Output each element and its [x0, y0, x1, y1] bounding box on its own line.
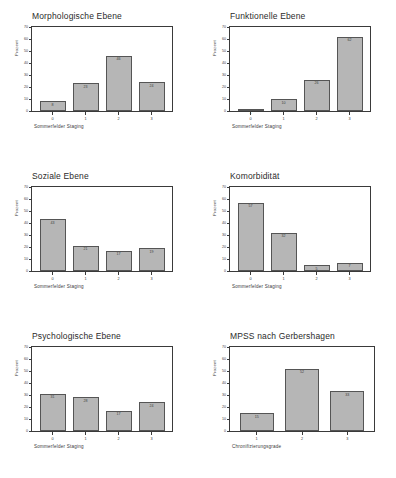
- bar: 28: [73, 397, 99, 431]
- x-tick-mark: [52, 271, 53, 275]
- x-axis-label: Sommerfelder Staging: [232, 124, 282, 129]
- y-tick-label: 0: [26, 429, 28, 433]
- bar-value-label: 26: [315, 82, 319, 86]
- y-tick-mark: [227, 271, 231, 272]
- bar-slot: 430: [36, 187, 69, 271]
- y-tick-label: 40: [222, 381, 226, 385]
- bar-value-label: 62: [348, 39, 352, 43]
- chart-panel-psychologische-ebene: Psychologische Ebene Prozent 01020304050…: [0, 320, 198, 478]
- chart-panel-funktionelle-ebene: Funktionelle Ebene Prozent 0102030405060…: [198, 0, 396, 160]
- plot-area: 010203040506070 5703215273: [229, 186, 371, 272]
- y-tick-label: 30: [222, 393, 226, 397]
- y-axis-label: Prozent: [212, 40, 217, 56]
- bar-slot: 172: [102, 347, 135, 431]
- y-axis-label: Prozent: [14, 200, 19, 216]
- x-tick-mark: [250, 271, 251, 275]
- y-tick-label: 50: [222, 369, 226, 373]
- x-tick-mark: [349, 111, 350, 115]
- y-tick-label: 0: [224, 429, 226, 433]
- bar-slot: 211: [69, 187, 102, 271]
- y-tick-label: 20: [24, 405, 28, 409]
- bar-slot: 462: [102, 27, 135, 111]
- bar-value-label: 28: [84, 400, 88, 404]
- y-tick-label: 60: [222, 37, 226, 41]
- chart-title: Komorbidität: [230, 171, 280, 181]
- x-tick-mark: [283, 111, 284, 115]
- bar-slot: 10: [234, 27, 267, 111]
- y-tick-label: 0: [224, 109, 226, 113]
- bar-slot: 151: [234, 347, 279, 431]
- y-tick-label: 20: [222, 245, 226, 249]
- bar-slot: 623: [333, 27, 366, 111]
- bar-value-label: 8: [52, 104, 54, 108]
- bar-slot: 281: [69, 347, 102, 431]
- x-tick-mark: [85, 271, 86, 275]
- plot-area: 010203040506070 80231462243: [31, 26, 173, 112]
- x-tick-label: 1: [256, 437, 258, 441]
- y-tick-label: 30: [24, 73, 28, 77]
- plot-area: 010203040506070 10101262623: [229, 26, 371, 112]
- x-tick-mark: [118, 111, 119, 115]
- bar-series: 430211172193: [32, 187, 172, 271]
- x-tick-label: 2: [301, 437, 303, 441]
- x-axis-label: Chronifizierungsgrade: [232, 444, 281, 449]
- x-tick-label: 3: [150, 277, 152, 281]
- x-tick-label: 0: [249, 277, 251, 281]
- y-axis-label: Prozent: [212, 200, 217, 216]
- y-tick-label: 10: [24, 97, 28, 101]
- bar-slot: 73: [333, 187, 366, 271]
- y-tick-label: 60: [24, 197, 28, 201]
- y-tick-label: 50: [222, 209, 226, 213]
- x-axis-label: Sommerfelder Staging: [34, 284, 84, 289]
- y-tick-label: 30: [222, 73, 226, 77]
- y-tick-label: 70: [222, 185, 226, 189]
- x-axis-label: Sommerfelder Staging: [232, 284, 282, 289]
- bar-slot: 172: [102, 187, 135, 271]
- x-tick-mark: [316, 271, 317, 275]
- bar: 19: [139, 248, 165, 271]
- y-tick-label: 70: [222, 25, 226, 29]
- chart-title: Psychologische Ebene: [32, 331, 121, 341]
- bar-value-label: 17: [117, 253, 121, 257]
- bar: 21: [73, 246, 99, 271]
- y-tick-label: 40: [222, 61, 226, 65]
- bar-value-label: 33: [345, 394, 349, 398]
- bar-value-label: 10: [282, 102, 286, 106]
- x-tick-mark: [316, 111, 317, 115]
- x-tick-mark: [85, 111, 86, 115]
- bar-value-label: 17: [117, 413, 121, 417]
- bar-slot: 522: [279, 347, 324, 431]
- x-tick-label: 3: [348, 117, 350, 121]
- bar-value-label: 32: [282, 235, 286, 239]
- bar-slot: 243: [135, 347, 168, 431]
- x-tick-label: 2: [315, 117, 317, 121]
- bar-slot: 193: [135, 187, 168, 271]
- bar: 24: [139, 402, 165, 431]
- bar: 57: [238, 203, 264, 271]
- x-tick-label: 3: [150, 437, 152, 441]
- bar: 52: [285, 369, 319, 431]
- bar-slot: 570: [234, 187, 267, 271]
- x-tick-label: 0: [51, 117, 53, 121]
- y-tick-label: 60: [222, 197, 226, 201]
- x-tick-mark: [347, 431, 348, 435]
- y-tick-label: 0: [26, 109, 28, 113]
- y-tick-label: 10: [222, 257, 226, 261]
- y-tick-label: 20: [222, 405, 226, 409]
- y-axis-label: Prozent: [212, 360, 217, 376]
- bar-slot: 321: [267, 187, 300, 271]
- y-tick-mark: [29, 271, 33, 272]
- bar-value-label: 57: [249, 205, 253, 209]
- bar: 23: [73, 83, 99, 111]
- y-tick-label: 10: [24, 417, 28, 421]
- chart-title: Morphologische Ebene: [32, 11, 122, 21]
- bar: 17: [106, 251, 132, 271]
- chart-panel-mpss-nach-gerbershagen: MPSS nach Gerbershagen Prozent 010203040…: [198, 320, 396, 478]
- bar: 17: [106, 411, 132, 431]
- y-tick-label: 10: [24, 257, 28, 261]
- x-tick-label: 2: [315, 277, 317, 281]
- y-tick-label: 70: [24, 185, 28, 189]
- bar: 7: [337, 263, 363, 271]
- y-tick-label: 20: [24, 85, 28, 89]
- x-tick-label: 0: [51, 277, 53, 281]
